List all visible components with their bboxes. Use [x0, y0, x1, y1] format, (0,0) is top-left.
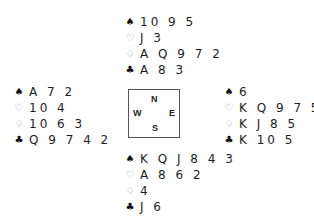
compass-south-label: S [152, 123, 158, 133]
north-hearts-cards: J 3 [140, 30, 164, 46]
east-clubs-row: ♣ K 10 5 [224, 132, 295, 148]
west-diamonds-cards: 10 6 3 [29, 116, 85, 132]
south-clubs-row: ♣ J 6 [125, 199, 164, 215]
heart-icon: ♡ [125, 167, 135, 183]
spade-icon: ♠ [125, 151, 135, 167]
heart-icon: ♡ [224, 100, 234, 116]
club-icon: ♣ [125, 199, 135, 215]
club-icon: ♣ [224, 132, 234, 148]
club-icon: ♣ [125, 62, 135, 78]
north-clubs-cards: A 8 3 [140, 62, 186, 78]
heart-icon: ♡ [125, 30, 135, 46]
west-spades-cards: A 7 2 [29, 84, 75, 100]
north-diamonds-cards: A Q 9 7 2 [140, 46, 223, 62]
spade-icon: ♠ [14, 84, 24, 100]
south-spades-row: ♠ K Q J 8 4 3 [125, 151, 236, 167]
club-icon: ♣ [14, 132, 24, 148]
south-diamonds-cards: 4 [140, 183, 151, 199]
east-clubs-cards: K 10 5 [239, 132, 295, 148]
west-diamonds-row: ♢ 10 6 3 [14, 116, 85, 132]
spade-icon: ♠ [224, 84, 234, 100]
south-clubs-cards: J 6 [140, 199, 164, 215]
north-diamonds-row: ♢ A Q 9 7 2 [125, 46, 223, 62]
east-spades-row: ♠ 6 [224, 84, 250, 100]
south-hearts-cards: A 8 6 2 [140, 167, 204, 183]
compass-box: N W E S [128, 89, 180, 138]
west-hearts-cards: 10 4 [29, 100, 68, 116]
east-hearts-row: ♡ K Q 9 7 5 [224, 100, 314, 116]
north-hearts-row: ♡ J 3 [125, 30, 164, 46]
east-diamonds-row: ♢ K J 8 5 [224, 116, 298, 132]
compass-west-label: W [133, 108, 142, 118]
west-clubs-row: ♣ Q 9 7 4 2 [14, 132, 111, 148]
east-diamonds-cards: K J 8 5 [239, 116, 298, 132]
east-hearts-cards: K Q 9 7 5 [239, 100, 314, 116]
west-clubs-cards: Q 9 7 4 2 [29, 132, 111, 148]
diamond-icon: ♢ [14, 116, 24, 132]
north-spades-row: ♠ 10 9 5 [125, 14, 196, 30]
south-spades-cards: K Q J 8 4 3 [140, 151, 236, 167]
compass-north-label: N [151, 94, 158, 104]
diamond-icon: ♢ [224, 116, 234, 132]
west-spades-row: ♠ A 7 2 [14, 84, 75, 100]
north-clubs-row: ♣ A 8 3 [125, 62, 186, 78]
north-spades-cards: 10 9 5 [140, 14, 196, 30]
south-hearts-row: ♡ A 8 6 2 [125, 167, 204, 183]
south-diamonds-row: ♢ 4 [125, 183, 151, 199]
heart-icon: ♡ [14, 100, 24, 116]
east-spades-cards: 6 [239, 84, 250, 100]
spade-icon: ♠ [125, 14, 135, 30]
compass-east-label: E [169, 108, 175, 118]
west-hearts-row: ♡ 10 4 [14, 100, 68, 116]
diamond-icon: ♢ [125, 46, 135, 62]
diamond-icon: ♢ [125, 183, 135, 199]
